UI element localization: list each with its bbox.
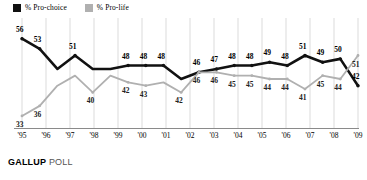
x-axis-ticks: '95'96'97'98'99'00'01'02'03'04'05'06'07'… — [0, 131, 367, 145]
data-point — [38, 47, 41, 50]
x-tick-label: '00 — [138, 131, 147, 140]
data-label: 45 — [228, 81, 236, 89]
data-label: 49 — [264, 49, 272, 57]
x-tick-label: '99 — [114, 131, 123, 140]
data-point — [268, 78, 271, 81]
data-point — [20, 37, 23, 40]
x-tick-label: '96 — [42, 131, 51, 140]
data-label: 56 — [16, 26, 24, 34]
data-point — [321, 74, 324, 77]
data-label: 51 — [352, 61, 360, 69]
legend-item-pro-life: % Pro-life — [85, 3, 129, 12]
x-tick-label: '95 — [18, 131, 27, 140]
data-label: 46 — [193, 77, 201, 85]
data-point — [21, 115, 24, 118]
data-label: 48 — [157, 53, 165, 61]
plot-area: 5653514848484647484849485149504233364042… — [0, 18, 367, 128]
chart-svg — [0, 18, 367, 128]
x-tick-label: '98 — [90, 131, 99, 140]
data-label: 36 — [34, 111, 42, 119]
data-point — [215, 71, 218, 74]
data-point — [38, 104, 41, 107]
data-point — [321, 61, 324, 64]
x-tick-label: '07 — [306, 131, 315, 140]
data-label: 41 — [299, 94, 307, 102]
chart-gridlines — [22, 18, 358, 128]
data-label: 46 — [193, 59, 201, 67]
x-tick-label: '02 — [186, 131, 195, 140]
data-label: 51 — [299, 43, 307, 51]
data-label: 51 — [69, 43, 77, 51]
data-point — [91, 91, 94, 94]
data-point — [250, 74, 253, 77]
x-axis-line — [14, 128, 359, 129]
data-label: 42 — [122, 87, 130, 95]
data-point — [268, 61, 271, 64]
x-tick-label: '04 — [234, 131, 243, 140]
x-tick-label: '97 — [66, 131, 75, 140]
data-point — [339, 57, 342, 60]
x-tick-label: '09 — [354, 131, 363, 140]
data-point — [180, 91, 183, 94]
gallup-abortion-chart: % Pro-choice % Pro-life 5653514848484647… — [0, 0, 367, 180]
legend-item-pro-choice: % Pro-choice — [13, 3, 67, 12]
data-point — [162, 64, 165, 67]
data-label: 44 — [264, 84, 272, 92]
legend-square-swatch-pro-choice — [13, 4, 21, 12]
data-point — [286, 78, 289, 81]
data-point — [339, 78, 342, 81]
data-label: 48 — [140, 53, 148, 61]
data-point — [126, 64, 129, 67]
data-point — [357, 54, 360, 57]
data-point — [73, 54, 76, 57]
data-label: 50 — [334, 46, 342, 54]
data-label: 47 — [211, 56, 219, 64]
data-label: 53 — [34, 36, 42, 44]
data-label: 44 — [281, 84, 289, 92]
data-point — [233, 74, 236, 77]
x-tick-label: '06 — [282, 131, 291, 140]
data-point — [250, 64, 253, 67]
data-label: 45 — [246, 81, 254, 89]
data-point — [144, 84, 147, 87]
data-label: 40 — [87, 97, 95, 105]
x-tick-label: '05 — [258, 131, 267, 140]
data-label: 43 — [140, 91, 148, 99]
legend-square-swatch-pro-life — [85, 4, 93, 12]
chart-source: GALLUP POLL — [8, 157, 73, 167]
data-point — [197, 71, 200, 74]
data-label: 48 — [281, 53, 289, 61]
chart-legend: % Pro-choice % Pro-life — [13, 3, 129, 12]
legend-label-pro-choice: % Pro-choice — [25, 3, 67, 12]
x-tick-label: '01 — [162, 131, 171, 140]
data-label: 48 — [228, 53, 236, 61]
x-tick-label: '08 — [330, 131, 339, 140]
data-label: 44 — [334, 84, 342, 92]
data-point — [127, 81, 130, 84]
data-label: 48 — [122, 53, 130, 61]
data-point — [304, 88, 307, 91]
source-brand: GALLUP — [8, 157, 46, 167]
data-label: 49 — [317, 49, 325, 57]
data-point — [144, 64, 147, 67]
data-point — [303, 54, 306, 57]
data-label: 42 — [175, 97, 183, 105]
data-point — [215, 67, 218, 70]
source-suffix: POLL — [49, 157, 73, 167]
data-label: 42 — [352, 73, 360, 81]
legend-label-pro-life: % Pro-life — [97, 3, 129, 12]
x-tick-label: '03 — [210, 131, 219, 140]
data-point — [356, 84, 359, 87]
data-point — [286, 64, 289, 67]
data-label: 45 — [317, 81, 325, 89]
data-label: 46 — [211, 77, 219, 85]
data-label: 48 — [246, 53, 254, 61]
data-point — [233, 64, 236, 67]
